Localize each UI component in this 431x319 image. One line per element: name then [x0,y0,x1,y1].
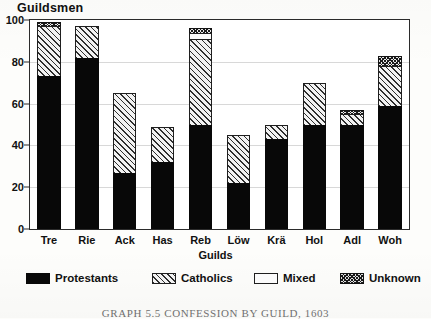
legend-item-unknown[interactable]: Unknown [340,272,421,284]
legend-swatch-catholics [152,273,176,284]
y-axis-tick-mark [24,61,30,62]
x-axis-tick-label-krä: Krä [267,234,285,246]
bar-adl [340,110,363,229]
y-axis-tick-label: 80 [0,56,24,68]
x-axis-tick-label-adl: Adl [343,234,361,246]
bar-hol [303,83,326,229]
legend-label-unknown: Unknown [369,272,421,284]
bar-segment-catholics [303,83,326,125]
bar-segment-catholics [113,93,136,172]
bar-rie [75,26,98,229]
bar-segment-catholics [378,66,401,106]
y-axis-tick-label: 60 [0,98,24,110]
bar-segment-catholics [189,39,212,125]
x-axis-tick-label-ack: Ack [115,234,135,246]
bar-has [151,127,174,229]
y-axis-tick-mark [24,20,30,21]
bar-segment-protestants [303,125,326,230]
y-axis-tick-label: 40 [0,139,24,151]
bar-reb [189,28,212,229]
bar-tre [37,22,60,229]
legend-label-protestants: Protestants [55,272,118,284]
legend-item-catholics[interactable]: Catholics [152,272,233,284]
chart-title: Guildsmen [17,1,83,15]
x-axis-tick-label-tre: Tre [41,234,58,246]
bar-segment-catholics [340,114,363,124]
legend-swatch-unknown [340,273,364,284]
x-axis-tick-label-has: Has [153,234,173,246]
plot-area [29,19,410,230]
bar-segment-catholics [265,125,288,140]
bar-segment-protestants [340,125,363,230]
bar-segment-protestants [189,125,212,230]
bar-segment-protestants [265,139,288,229]
y-axis-tick-label: 0 [0,223,24,235]
figure-caption: GRAPH 5.5 CONFESSION BY GUILD, 1603 [0,307,431,319]
y-axis-tick-mark [24,145,30,146]
legend-item-protestants[interactable]: Protestants [26,272,118,284]
bar-series-group [30,20,409,229]
x-axis-tick-label-rie: Rie [78,234,95,246]
bar-segment-protestants [113,173,136,229]
x-axis-title: Guilds [0,249,431,261]
bar-segment-unknown [378,56,401,66]
bar-segment-protestants [151,162,174,229]
legend-label-catholics: Catholics [181,272,233,284]
y-axis-tick-mark [24,103,30,104]
y-axis-tick-label: 20 [0,181,24,193]
bar-woh [378,56,401,229]
legend-swatch-mixed [254,273,278,284]
bar-ack [113,93,136,229]
legend-swatch-protestants [26,273,50,284]
y-axis-tick-mark [24,187,30,188]
bar-segment-catholics [227,135,250,183]
y-axis-tick-mark [24,229,30,230]
bar-krä [265,125,288,230]
bar-segment-protestants [75,58,98,229]
x-axis-tick-label-woh: Woh [378,234,402,246]
bar-segment-catholics [151,127,174,163]
legend-item-mixed[interactable]: Mixed [254,272,316,284]
y-axis-tick-label: 100 [0,14,24,26]
bar-segment-protestants [37,76,60,229]
bar-segment-protestants [227,183,250,229]
bar-segment-protestants [378,106,401,229]
chart-legend: ProtestantsCatholicsMixedUnknown [0,272,431,292]
x-axis-tick-label-reb: Reb [190,234,211,246]
bar-segment-catholics [75,26,98,57]
bar-löw [227,135,250,229]
legend-label-mixed: Mixed [283,272,316,284]
x-axis-tick-label-löw: Löw [227,234,249,246]
x-axis-tick-label-hol: Hol [305,234,323,246]
bar-segment-catholics [37,26,60,76]
